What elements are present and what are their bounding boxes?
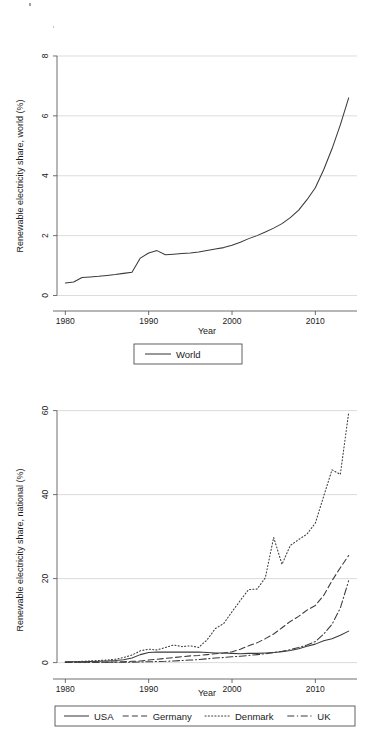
chart-panel-national: 02040601980199020002010 Renewable electr… bbox=[0, 378, 373, 755]
y-tick-label-6: 6 bbox=[40, 113, 50, 118]
y-tick-label-4: 4 bbox=[40, 173, 50, 178]
y-tick-label-0: 0 bbox=[40, 660, 50, 665]
x-tick-label-2010: 2010 bbox=[306, 684, 325, 694]
figure-root: 024681980199020002010 Renewable electric… bbox=[0, 0, 373, 755]
y-tick-label-20: 20 bbox=[40, 574, 50, 584]
series-line-world bbox=[65, 98, 348, 283]
national-x-axis-title: Year bbox=[198, 688, 216, 698]
national-grid-lines bbox=[57, 411, 357, 663]
y-tick-label-0: 0 bbox=[40, 293, 50, 298]
y-tick-label-40: 40 bbox=[40, 490, 50, 500]
series-line-usa bbox=[65, 631, 348, 662]
y-tick-label-60: 60 bbox=[40, 406, 50, 416]
legend-label-denmark: Denmark bbox=[235, 711, 274, 722]
world-x-axis-title: Year bbox=[198, 326, 216, 336]
x-tick-label-2010: 2010 bbox=[306, 316, 325, 326]
national-series-lines bbox=[65, 413, 348, 662]
x-tick-label-1990: 1990 bbox=[139, 684, 158, 694]
world-tick-labels: 024681980199020002010 bbox=[40, 53, 325, 326]
world-legend: World bbox=[134, 344, 242, 364]
x-tick-label-2000: 2000 bbox=[223, 684, 242, 694]
y-tick-label-2: 2 bbox=[40, 233, 50, 238]
legend-label-germany: Germany bbox=[153, 711, 192, 722]
world-y-axis-title: Renewable electricity share, world (%) bbox=[15, 99, 25, 252]
world-grid-lines bbox=[57, 56, 357, 296]
legend-label-uk: UK bbox=[317, 711, 331, 722]
series-line-denmark bbox=[65, 413, 348, 662]
x-tick-label-1980: 1980 bbox=[56, 684, 75, 694]
national-axes bbox=[53, 411, 357, 683]
national-legend: USAGermanyDenmarkUK bbox=[55, 706, 355, 726]
x-tick-label-2000: 2000 bbox=[223, 316, 242, 326]
legend-label-usa: USA bbox=[94, 711, 114, 722]
x-tick-label-1990: 1990 bbox=[139, 316, 158, 326]
series-line-uk bbox=[65, 581, 348, 662]
chart-panel-world: 024681980199020002010 Renewable electric… bbox=[0, 0, 373, 378]
national-y-axis-title: Renewable electricity share, national (%… bbox=[15, 468, 25, 631]
x-tick-label-1980: 1980 bbox=[56, 316, 75, 326]
national-chart-svg: 02040601980199020002010 Renewable electr… bbox=[0, 378, 373, 755]
legend-label-world: World bbox=[176, 349, 201, 360]
world-series-lines bbox=[65, 98, 348, 283]
world-chart-svg: 024681980199020002010 Renewable electric… bbox=[0, 0, 373, 378]
y-tick-label-8: 8 bbox=[40, 53, 50, 58]
